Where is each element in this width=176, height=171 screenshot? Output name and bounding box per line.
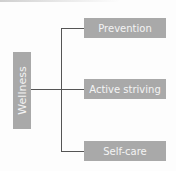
root-node-wellness: Wellness xyxy=(13,52,31,129)
top-border xyxy=(0,0,120,2)
connector-self-care xyxy=(61,151,84,152)
child-node-prevention: Prevention xyxy=(84,18,166,38)
connector-active-striving xyxy=(61,89,84,90)
connector-vertical-trunk xyxy=(61,28,62,152)
connector-prevention xyxy=(61,28,84,29)
root-node-label: Wellness xyxy=(16,66,29,114)
child-node-label: Prevention xyxy=(98,23,151,34)
child-node-active-striving: Active striving xyxy=(84,79,166,99)
child-node-label: Active striving xyxy=(89,84,161,95)
child-node-self-care: Self-care xyxy=(84,141,166,161)
child-node-label: Self-care xyxy=(103,146,147,157)
connector-root-horizontal xyxy=(31,89,62,90)
